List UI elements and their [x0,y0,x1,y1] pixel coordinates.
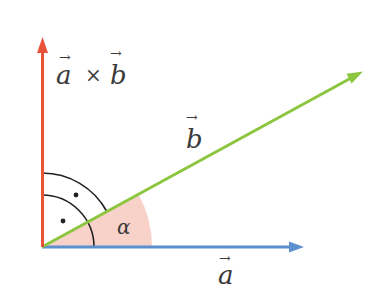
vector-arrow-icon: → [186,109,198,125]
vector-b-line [42,78,352,248]
label-b: b [186,124,203,154]
cross-product-diagram: a → × b → b → a → α [0,0,382,307]
vector-axb-arrowhead [37,37,48,53]
vector-b-arrowhead [346,72,363,84]
label-alpha: α [117,215,131,239]
vector-arrow-icon: → [110,45,122,61]
right-angle-dot-outer [74,193,79,198]
label-axb-b: b [110,60,127,90]
right-angle-dot-inner [61,219,66,224]
label-a-cross-b: a → × b → [56,45,127,90]
label-vector-b: b → [186,109,203,154]
vector-a-arrowhead [289,242,304,253]
vector-arrow-icon: → [59,49,71,65]
vector-arrow-icon: → [219,250,231,266]
cross-operator: × [85,63,102,87]
label-vector-a: a → [218,250,234,290]
